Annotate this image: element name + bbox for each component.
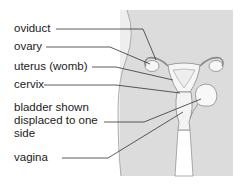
label-vagina: vagina <box>14 151 48 164</box>
label-uterus: uterus (womb) <box>14 60 88 73</box>
label-ovary: ovary <box>14 40 42 53</box>
bladder <box>195 84 217 106</box>
label-cervix: cervix <box>14 78 44 91</box>
label-oviduct: oviduct <box>14 22 50 35</box>
label-bladder: bladder shown displaced to one side <box>14 101 106 140</box>
right-ovary <box>209 61 223 72</box>
leg-gap <box>175 130 193 176</box>
vagina-canal <box>176 92 192 130</box>
left-ovary <box>145 61 159 72</box>
